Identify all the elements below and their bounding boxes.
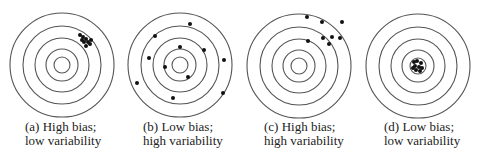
shot-dot xyxy=(88,42,92,46)
shot-dot xyxy=(327,42,331,46)
target-d xyxy=(366,14,470,118)
shot-dot xyxy=(188,22,192,26)
shot-dot xyxy=(84,44,88,48)
shot-dot xyxy=(89,38,93,42)
caption-b-line1: (b) Low bias; xyxy=(143,120,223,134)
shot-dot xyxy=(338,36,342,40)
caption-b: (b) Low bias; high variability xyxy=(143,120,223,148)
shot-dot xyxy=(330,35,334,39)
target-ring xyxy=(272,39,326,93)
target-ring xyxy=(283,50,315,82)
shot-dot xyxy=(321,36,325,40)
target-a xyxy=(10,13,114,117)
target-ring xyxy=(46,49,78,81)
shot-dot xyxy=(171,96,175,100)
shot-dot xyxy=(419,61,423,65)
shot-dot xyxy=(163,65,167,69)
shot-dot xyxy=(135,81,139,85)
caption-a: (a) High bias; low variability xyxy=(25,120,101,148)
target-ring xyxy=(291,58,307,74)
shot-dot xyxy=(202,48,206,52)
target-ring xyxy=(128,13,232,117)
caption-c: (c) High bias; high variability xyxy=(264,120,344,148)
caption-d-line1: (d) Low bias; xyxy=(384,120,460,134)
caption-d-line2: low variability xyxy=(384,134,460,148)
target-ring xyxy=(35,38,89,92)
shot-dot xyxy=(186,75,190,79)
caption-b-line2: high variability xyxy=(143,134,223,148)
shot-dot xyxy=(222,58,226,62)
target-ring xyxy=(164,49,196,81)
caption-c-line2: high variability xyxy=(264,134,344,148)
shot-dot xyxy=(305,15,309,19)
target-ring xyxy=(54,57,70,73)
shot-dot xyxy=(320,20,324,24)
shot-dot xyxy=(82,40,86,44)
caption-a-line1: (a) High bias; xyxy=(25,120,101,134)
shot-dot xyxy=(306,39,310,43)
target-ring xyxy=(247,14,351,118)
shot-dot xyxy=(178,45,182,49)
shot-dot xyxy=(418,69,422,73)
shot-dot xyxy=(340,20,344,24)
target-b xyxy=(128,13,232,117)
caption-a-line2: low variability xyxy=(25,134,101,148)
shot-dot xyxy=(221,91,225,95)
shot-dot xyxy=(147,56,151,60)
target-ring xyxy=(10,13,114,117)
caption-d: (d) Low bias; low variability xyxy=(384,120,460,148)
shot-dot xyxy=(415,59,419,63)
target-ring xyxy=(172,57,188,73)
caption-c-line1: (c) High bias; xyxy=(264,120,344,134)
shot-dot xyxy=(153,34,157,38)
shot-dot xyxy=(411,66,415,70)
target-c xyxy=(247,14,351,118)
